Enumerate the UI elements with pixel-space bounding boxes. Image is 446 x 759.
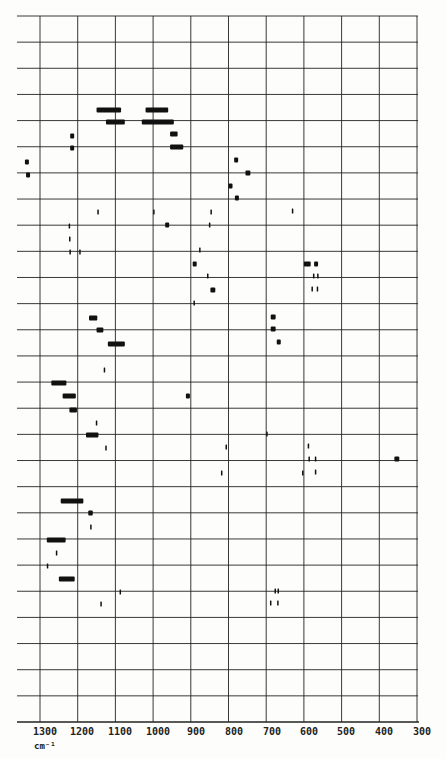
band-bar (89, 316, 97, 321)
band-dot (229, 184, 233, 189)
band-tick (120, 590, 122, 595)
band-tick (90, 525, 92, 530)
band-tick (193, 301, 195, 306)
band-tick (47, 564, 49, 569)
band-tick (56, 551, 58, 556)
band-bar (63, 394, 76, 399)
x-tick-500: 500 (337, 726, 355, 737)
band-bar (97, 328, 104, 333)
band-tick (225, 445, 227, 450)
band-dot (394, 457, 399, 462)
band-tick (79, 250, 81, 255)
band-dot (210, 288, 215, 293)
band-tick (315, 457, 317, 462)
band-tick (274, 589, 276, 594)
band-bar (86, 433, 98, 438)
band-bar (108, 342, 125, 347)
band-dot (314, 262, 318, 267)
band-tick (104, 368, 106, 373)
band-dot (277, 340, 281, 345)
band-dot (234, 158, 238, 163)
band-dot (26, 173, 30, 178)
band-tick (69, 250, 71, 255)
x-tick-900: 900 (187, 726, 205, 737)
band-tick (153, 210, 155, 215)
band-tick (209, 223, 211, 228)
band-tick (317, 274, 319, 279)
band-tick (210, 210, 212, 215)
band-dot (271, 327, 276, 332)
band-tick (105, 446, 107, 451)
band-bar (59, 577, 75, 582)
band-dot (165, 223, 169, 228)
band-tick (278, 589, 280, 594)
band-tick (308, 444, 310, 449)
band-tick (266, 432, 268, 437)
band-tick (311, 287, 313, 292)
x-axis-unit: cm⁻¹ (34, 741, 56, 751)
band-dot (70, 146, 74, 151)
band-dot (70, 134, 74, 139)
spectrum-correlation-chart (0, 0, 446, 759)
band-tick (97, 210, 99, 215)
band-bar (170, 145, 183, 150)
band-tick (277, 601, 279, 606)
band-bar (142, 120, 174, 125)
x-tick-800: 800 (225, 726, 243, 737)
band-tick (315, 470, 317, 475)
x-tick-300: 300 (413, 726, 431, 737)
band-tick (270, 601, 272, 606)
band-dot (235, 196, 239, 201)
band-tick (69, 237, 71, 242)
band-tick (308, 457, 310, 462)
band-tick (199, 248, 201, 253)
band-bar (304, 262, 311, 267)
band-bar (170, 132, 178, 137)
band-bar (106, 120, 125, 125)
x-tick-600: 600 (300, 726, 318, 737)
band-bar (51, 381, 66, 386)
band-bar (146, 108, 169, 113)
band-tick (313, 274, 315, 279)
band-tick (96, 421, 98, 426)
x-tick-1200: 1200 (70, 726, 94, 737)
band-tick (100, 602, 102, 607)
x-tick-1300: 1300 (33, 726, 57, 737)
band-tick (69, 224, 71, 229)
x-tick-1100: 1100 (108, 726, 132, 737)
x-tick-700: 700 (263, 726, 281, 737)
band-dot (245, 171, 250, 176)
band-bar (69, 408, 77, 413)
band-tick (302, 471, 304, 476)
band-tick (317, 287, 319, 292)
band-dot (271, 315, 276, 320)
band-bar (61, 499, 84, 504)
x-tick-1000: 1000 (146, 726, 170, 737)
band-bar (47, 538, 66, 543)
band-dot (193, 262, 197, 267)
band-bar (97, 108, 122, 113)
band-tick (292, 209, 294, 214)
band-tick (221, 471, 223, 476)
x-tick-400: 400 (375, 726, 393, 737)
band-dot (186, 394, 190, 399)
band-dot (88, 511, 93, 516)
band-tick (207, 274, 209, 279)
band-dot (25, 160, 29, 165)
